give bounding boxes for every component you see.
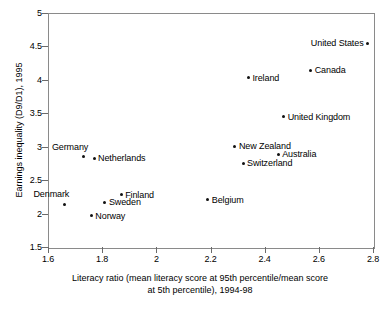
data-point-label: Germany	[52, 142, 88, 152]
x-tick-mark	[102, 247, 103, 253]
x-tick-mark	[319, 247, 320, 253]
y-tick-mark	[42, 180, 48, 181]
x-tick-label: 2.6	[299, 254, 339, 264]
data-point-label: Belgium	[212, 195, 244, 205]
y-tick-mark	[42, 113, 48, 114]
data-point-label: Ireland	[252, 73, 279, 83]
y-tick-label: 1.5	[30, 242, 42, 252]
data-point-label: Switzerland	[247, 158, 292, 168]
y-tick-label: 2.5	[30, 175, 42, 185]
y-tick-mark	[42, 147, 48, 148]
y-tick-label: 3	[37, 142, 42, 152]
y-tick-label: 4	[37, 75, 42, 85]
x-tick-label: 1.6	[28, 254, 68, 264]
x-tick-mark	[373, 247, 374, 253]
y-tick-mark	[42, 46, 48, 47]
data-point-label: Denmark	[33, 189, 69, 199]
x-tick-label: 2.4	[245, 254, 285, 264]
x-tick-label: 2	[136, 254, 176, 264]
y-tick-mark	[42, 13, 48, 14]
x-axis-title-line-1: Literacy ratio (mean literacy score at 9…	[30, 272, 370, 284]
x-axis-title-line-2: at 5th percentile), 1994-98	[30, 284, 370, 296]
data-point	[82, 155, 85, 158]
y-tick-label: 3.5	[30, 108, 42, 118]
x-tick-mark	[48, 247, 49, 253]
x-tick-label: 2.8	[353, 254, 391, 264]
data-point	[93, 157, 96, 160]
x-axis-title: Literacy ratio (mean literacy score at 9…	[30, 272, 370, 296]
x-tick-label: 2.2	[191, 254, 231, 264]
data-point-label: United Kingdom	[288, 112, 351, 122]
data-point-label: Netherlands	[98, 153, 145, 163]
y-tick-mark	[42, 80, 48, 81]
data-point	[366, 42, 369, 45]
data-point	[277, 153, 280, 156]
y-tick-label: 4.5	[30, 41, 42, 51]
data-point-label: Canada	[315, 65, 346, 75]
scatter-chart: Earnings inequality (D9/D1), 1995 Litera…	[0, 0, 391, 312]
data-point-label: Sweden	[109, 197, 141, 207]
data-point	[242, 162, 245, 165]
y-tick-label: 2	[37, 209, 42, 219]
x-tick-mark	[156, 247, 157, 253]
y-tick-label: 5	[37, 8, 42, 18]
y-axis-title: Earnings inequality (D9/D1), 1995	[13, 13, 26, 247]
x-tick-mark	[265, 247, 266, 253]
y-tick-mark	[42, 214, 48, 215]
data-point-label: United States	[311, 38, 364, 48]
data-point-label: Norway	[95, 211, 125, 221]
x-tick-label: 1.8	[82, 254, 122, 264]
data-point	[63, 203, 66, 206]
x-tick-mark	[211, 247, 212, 253]
data-point	[90, 214, 93, 217]
